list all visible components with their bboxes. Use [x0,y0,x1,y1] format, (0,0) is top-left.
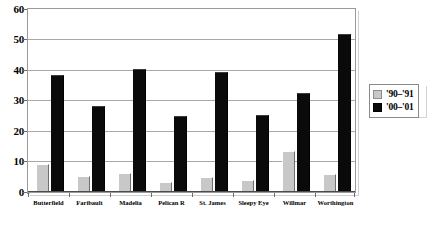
x-axis-baseline [28,191,355,192]
x-axis-label-st-james: St. James [192,199,233,206]
x-axis-label-madelia: Madelia [110,199,151,206]
bar-group [75,9,110,191]
bar-series-1 [77,176,90,191]
bar-chart: 60 50 40 30 20 10 0 [0,0,432,226]
legend-swatch-black-icon [373,103,382,112]
y-axis-tick-label: 30 [2,95,24,106]
bar-series-2 [174,116,187,191]
x-axis-tick-mark [233,193,234,197]
bar-group [157,9,192,191]
bar-series-1 [241,180,254,191]
x-axis-tick-mark [151,193,152,197]
x-axis-tick-mark [354,193,355,197]
x-axis-tick-marks [28,193,355,197]
y-axis-tick-label: 50 [2,34,24,45]
bar-series-2 [297,93,310,191]
bar-series-2 [256,115,269,191]
x-axis-tick-mark [192,193,193,197]
bar-group [321,9,356,191]
bar-series-1 [36,164,49,191]
legend: '90–'91 '00–'01 [369,84,419,118]
bar-series-2 [51,75,64,191]
y-axis-tick-label: 10 [2,156,24,167]
y-axis-tick-label: 60 [2,4,24,15]
bar-series-2 [133,69,146,191]
bar-series-1 [282,151,295,191]
bar-series-1 [200,177,213,191]
bar-series-1 [159,182,172,191]
bar-group [34,9,69,191]
bar-group [116,9,151,191]
x-axis-label-pelican-r: Pelican R [151,199,192,206]
legend-entry: '90–'91 [373,88,414,101]
bar-series-1 [323,174,336,191]
x-axis-label-worthington: Worthington [315,199,356,206]
x-axis-label-faribault: Faribault [69,199,110,206]
bar-series-2 [338,34,351,191]
x-axis-label-butterfield: Butterfield [28,199,69,206]
bar-series-2 [215,72,228,191]
x-axis-label-sleepy-eye: Sleepy Eye [233,199,274,206]
bar-series-2 [92,106,105,191]
x-axis-tick-mark [69,193,70,197]
bar-group [239,9,274,191]
x-axis-tick-mark [274,193,275,197]
x-axis-tick-mark [315,193,316,197]
legend-swatch-light-gray-icon [373,90,382,99]
y-axis-tick-label: 0 [2,187,24,198]
x-axis-tick-mark [110,193,111,197]
y-axis-tick-label: 20 [2,126,24,137]
x-axis-label-willmar: Willmar [274,199,315,206]
legend-entry: '00–'01 [373,101,414,114]
legend-label: '00–'01 [386,103,414,113]
x-axis-category-labels: Butterfield Faribault Madelia Pelican R … [28,199,355,213]
bar-series-1 [118,173,131,191]
y-axis-tick-label: 40 [2,65,24,76]
bar-group [198,9,233,191]
bar-group [280,9,315,191]
plot-area [28,9,355,192]
legend-label: '90–'91 [386,90,414,100]
x-axis-tick-mark [28,193,29,197]
